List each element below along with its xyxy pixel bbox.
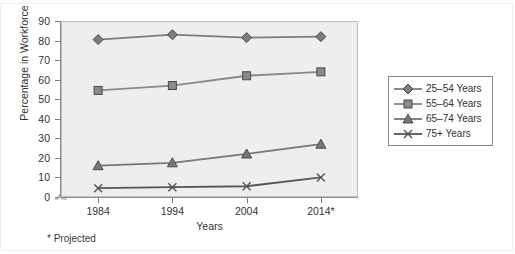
legend: 25–54 Years55–64 Years65–74 Years75+ Yea…	[388, 76, 493, 146]
data-point-diamond	[403, 84, 413, 94]
data-point-diamond	[167, 30, 177, 40]
x-tick-label: 1994	[137, 205, 207, 217]
legend-item-label: 75+ Years	[423, 127, 471, 141]
x-tick	[321, 198, 322, 203]
x-axis-title: Years	[61, 220, 358, 232]
data-point-square	[94, 86, 102, 94]
footnote-projected: * Projected	[47, 233, 96, 244]
legend-item[interactable]: 55–64 Years	[393, 96, 487, 111]
legend-item[interactable]: 75+ Years	[393, 126, 487, 141]
legend-item-label: 55–64 Years	[423, 97, 482, 111]
series-line-3	[98, 144, 321, 166]
y-tick	[55, 41, 60, 42]
data-point-diamond	[93, 35, 103, 45]
chart-figure: 9080706050403020100 Percentage in Workfo…	[0, 0, 515, 254]
legend-marker-square-icon	[393, 97, 423, 111]
x-tick	[172, 198, 173, 203]
y-tick-label: 10	[0, 172, 50, 183]
y-tick	[55, 60, 60, 61]
data-point-square	[243, 72, 251, 80]
legend-marker-x-icon	[393, 127, 423, 141]
y-tick	[55, 158, 60, 159]
legend-item-label: 65–74 Years	[423, 112, 482, 126]
x-tick-label: 2004	[212, 205, 282, 217]
data-point-square	[404, 100, 412, 108]
data-point-diamond	[242, 33, 252, 43]
series-line-4	[98, 177, 321, 188]
y-axis-title: Percentage in Workforce	[18, 0, 30, 143]
y-tick	[55, 21, 60, 22]
x-axis-line	[61, 197, 358, 198]
series-plot	[61, 21, 358, 197]
series-line-2	[98, 72, 321, 91]
legend-item[interactable]: 65–74 Years	[393, 111, 487, 126]
y-tick	[55, 138, 60, 139]
legend-item[interactable]: 25–54 Years	[393, 81, 487, 96]
y-tick	[55, 99, 60, 100]
legend-marker-diamond-icon	[393, 82, 423, 96]
data-point-square	[317, 68, 325, 76]
legend-item-label: 25–54 Years	[423, 82, 482, 96]
x-tick-label: 2014*	[286, 205, 356, 217]
y-tick	[55, 119, 60, 120]
series-line-1	[98, 35, 321, 40]
y-tick-label: 20	[0, 153, 50, 164]
data-point-diamond	[316, 32, 326, 42]
y-tick	[55, 177, 60, 178]
x-tick-label: 1984	[63, 205, 133, 217]
x-tick	[98, 198, 99, 203]
data-point-triangle	[316, 139, 326, 148]
x-tick	[247, 198, 248, 203]
data-point-square	[168, 82, 176, 90]
y-tick	[55, 80, 60, 81]
y-tick-label: 0	[0, 192, 50, 203]
legend-marker-triangle-icon	[393, 112, 423, 126]
